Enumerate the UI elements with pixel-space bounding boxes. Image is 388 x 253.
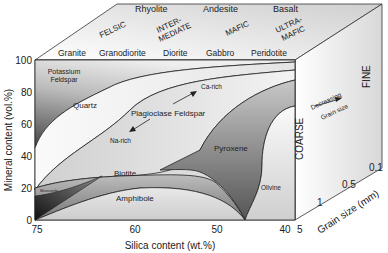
k-feldspar-label-2: Feldspar bbox=[50, 76, 78, 84]
y-tick-100: 100 bbox=[15, 55, 32, 66]
x-tick-75: 75 bbox=[31, 224, 43, 235]
amphibole-label: Amphibole bbox=[116, 194, 154, 203]
z-tick-5: 5 bbox=[297, 224, 303, 235]
basalt-label: Basalt bbox=[273, 4, 299, 14]
na-rich-label: Na-rich bbox=[110, 137, 131, 144]
coarse-label: COARSE bbox=[294, 117, 305, 160]
z-tick-1: 1 bbox=[317, 197, 323, 208]
ca-rich-label: Ca-rich bbox=[201, 83, 222, 90]
x-axis-label: Silica content (wt.%) bbox=[125, 240, 216, 251]
quartz-label: Quartz bbox=[73, 101, 97, 110]
x-tick-50: 50 bbox=[211, 224, 223, 235]
rhyolite-label: Rhyolite bbox=[135, 4, 168, 14]
fine-label: FINE bbox=[361, 65, 372, 88]
y-tick-60: 60 bbox=[21, 119, 33, 130]
pyroxene-label: Pyroxene bbox=[214, 144, 248, 153]
z-tick-0-5: 0.5 bbox=[342, 179, 356, 190]
diorite-label: Diorite bbox=[163, 48, 188, 58]
y-tick-80: 80 bbox=[21, 87, 33, 98]
biotite-label: Biotite bbox=[114, 169, 137, 178]
rock-classification-diagram: Rhyolite Andesite Basalt FELSIC INTER- M… bbox=[0, 0, 388, 253]
granite-label: Granite bbox=[58, 48, 86, 58]
gabbro-label: Gabbro bbox=[206, 48, 235, 58]
y-axis-label: Mineral content (vol.%) bbox=[3, 89, 14, 191]
plagioclase-label: Plagioclase Feldspar bbox=[131, 109, 206, 118]
olivine-label: Olivine bbox=[261, 184, 281, 191]
x-tick-60: 60 bbox=[129, 224, 141, 235]
y-tick-20: 20 bbox=[21, 183, 33, 194]
andesite-label: Andesite bbox=[203, 4, 238, 14]
x-tick-40: 40 bbox=[279, 224, 291, 235]
granodiorite-label: Granodiorite bbox=[99, 48, 146, 58]
k-feldspar-label-1: Potassium bbox=[48, 68, 81, 75]
muscovite-label: Muscovite bbox=[40, 188, 59, 193]
peridotite-label: Peridotite bbox=[251, 48, 287, 58]
y-tick-40: 40 bbox=[21, 151, 33, 162]
z-tick-0-1: 0.1 bbox=[369, 162, 383, 173]
